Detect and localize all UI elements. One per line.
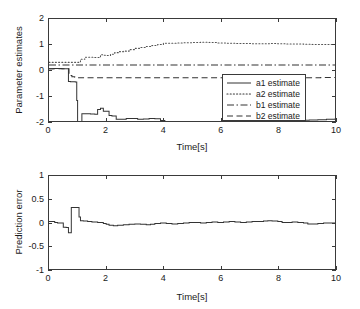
dashdot-line-key [226,100,252,110]
y-tick-label: 1 [18,171,44,180]
series-a2-estimate [49,42,335,62]
x-tick-top [163,18,164,22]
y-tick-label: -1 [18,266,44,275]
y-tick [48,18,52,19]
x-tick-label: 10 [331,274,341,283]
top-panel: 0246810210-1-2 Parameter estimates Time[… [0,0,360,160]
solid-line-key [226,78,252,88]
x-tick [336,266,337,270]
legend-label: b2 estimate [256,111,300,121]
x-tick-top [106,18,107,22]
legend-item: a2 estimate [226,88,301,99]
bottom-plot-axes [48,175,336,270]
prediction-error-plot [49,176,335,269]
x-tick-top [106,175,107,179]
legend-item: b1 estimate [226,99,301,110]
legend-item: a1 estimate [226,77,301,88]
x-tick-label: 4 [161,274,166,283]
bottom-x-axis-title: Time[s] [177,291,208,302]
y-tick-label: -2 [18,118,44,127]
legend-label: b1 estimate [256,100,300,110]
x-tick [278,266,279,270]
dashed-line-key [226,111,252,121]
y-tick-label: 2 [18,14,44,23]
y-tick [48,246,52,247]
x-tick-label: 2 [103,126,108,135]
top-x-axis-title: Time[s] [177,141,208,152]
y-tick-right [332,223,336,224]
legend-item: b2 estimate [226,110,301,121]
y-tick-right [332,122,336,123]
y-tick [48,223,52,224]
y-tick-right [332,199,336,200]
bottom-panel: 024681010.50-0.5-1 Prediction error Time… [0,160,360,309]
x-tick-label: 10 [331,126,341,135]
legend-label: a2 estimate [256,89,300,99]
x-tick-top [278,175,279,179]
x-tick-label: 8 [276,126,281,135]
x-tick-label: 6 [218,274,223,283]
x-tick [106,118,107,122]
series-prediction-error [49,208,335,233]
y-tick-right [332,96,336,97]
x-tick-label: 0 [45,126,50,135]
y-tick [48,70,52,71]
y-tick [48,44,52,45]
x-tick [221,266,222,270]
y-tick [48,122,52,123]
y-tick-right [332,246,336,247]
x-tick-label: 2 [103,274,108,283]
y-tick-right [332,270,336,271]
bottom-y-axis-title: Prediction error [13,190,24,255]
x-tick-top [221,175,222,179]
top-plot-legend: a1 estimatea2 estimateb1 estimateb2 esti… [222,74,306,121]
legend-label: a1 estimate [256,78,300,88]
dotted-line-key [226,89,252,99]
y-tick-right [332,18,336,19]
x-tick-top [221,18,222,22]
y-tick [48,270,52,271]
x-tick [106,266,107,270]
x-tick-top [336,175,337,179]
y-tick-right [332,175,336,176]
x-tick-label: 8 [276,274,281,283]
x-tick-top [336,18,337,22]
x-tick-top [278,18,279,22]
x-tick-label: 0 [45,274,50,283]
x-tick [163,266,164,270]
x-tick [336,118,337,122]
y-tick-right [332,70,336,71]
y-tick [48,96,52,97]
x-tick-top [163,175,164,179]
x-tick [163,118,164,122]
figure-parameter-estimation: 0246810210-1-2 Parameter estimates Time[… [0,0,360,309]
y-tick [48,199,52,200]
x-tick-label: 6 [218,126,223,135]
y-tick [48,175,52,176]
y-tick-right [332,44,336,45]
x-tick-label: 4 [161,126,166,135]
top-y-axis-title: Parameter estimates [13,26,24,114]
